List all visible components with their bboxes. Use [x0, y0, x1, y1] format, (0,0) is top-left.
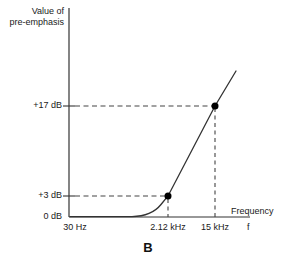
- panel-caption: B: [130, 240, 166, 255]
- y-axis-title-line-1: Value of: [0, 6, 64, 17]
- y-axis-title-line-2: pre-emphasis: [0, 17, 64, 28]
- x-tick-label-212khz: 2.12 kHz: [139, 222, 197, 233]
- y-tick-label-17db: +17 dB: [14, 100, 62, 111]
- x-tick-label-15khz: 15 kHz: [190, 222, 240, 233]
- pre-emphasis-curve: [70, 71, 236, 217]
- y-tick-label-0db: 0 dB: [14, 211, 62, 222]
- pre-emphasis-figure: Value of pre-emphasis +17 dB +3 dB 0 dB …: [0, 0, 286, 274]
- data-point-15khz-17db: [212, 103, 219, 110]
- x-axis-title: Frequency: [231, 206, 274, 217]
- x-tick-label-30hz: 30 Hz: [55, 222, 95, 233]
- data-point-212khz-3db: [165, 193, 172, 200]
- y-tick-label-3db: +3 dB: [14, 190, 62, 201]
- x-axis-symbol: f: [247, 222, 250, 233]
- y-axis-title: Value of pre-emphasis: [0, 6, 64, 28]
